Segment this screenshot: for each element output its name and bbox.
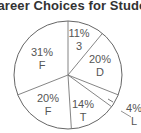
slice-label-pct: 20% [89,53,111,65]
slice-label-pct: 14% [72,98,94,110]
slice-label-name: F [39,59,46,71]
slice-label-name: T [80,111,87,123]
slice-label-pct: 20% [37,92,59,104]
pie-chart: 11% 3 20% D 4% L 14% T 20% F 31% F [0,0,141,133]
slice-label-name: F [45,105,52,117]
slice-label-name: L [131,115,137,127]
slice-label-pct: 31% [31,46,53,58]
slice-label-pct: 11% [68,27,89,39]
slice-label-name: D [96,66,104,78]
slice-label-name: 3 [76,40,82,52]
slice-label-pct: 4% [126,102,141,114]
